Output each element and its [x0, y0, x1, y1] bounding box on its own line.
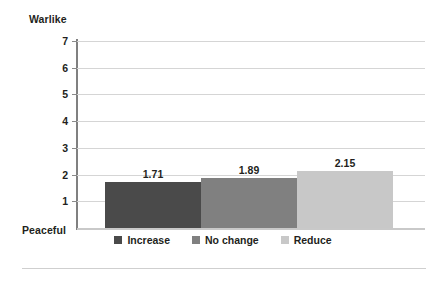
plot-area: [77, 41, 425, 228]
footer-divider: [22, 268, 426, 269]
x-axis-baseline: [77, 228, 425, 230]
legend-swatch-icon: [281, 236, 289, 244]
y-axis-tick-label: 3: [0, 143, 68, 154]
y-axis-tick-label: 1: [0, 196, 68, 207]
bar-value-label: 1.89: [201, 164, 297, 176]
legend-label: No change: [205, 235, 259, 246]
legend-item-reduce[interactable]: Reduce: [281, 235, 332, 246]
y-axis-tick-label: 2: [0, 170, 68, 181]
legend-swatch-icon: [192, 236, 200, 244]
y-axis-tick-label: 4: [0, 116, 68, 127]
y-axis-tick-label: 7: [0, 36, 68, 47]
legend-item-no-change[interactable]: No change: [192, 235, 259, 246]
legend-swatch-icon: [114, 236, 122, 244]
legend-label: Increase: [127, 235, 170, 246]
bar-value-label: 2.15: [297, 157, 393, 169]
bar-value-label: 1.71: [105, 168, 201, 180]
legend-item-increase[interactable]: Increase: [114, 235, 170, 246]
bar-chart: Warlike Peaceful 7654321 1.711.892.15 In…: [0, 0, 446, 281]
bar-no-change[interactable]: [201, 178, 297, 228]
legend-label: Reduce: [294, 235, 332, 246]
bar-reduce[interactable]: [297, 171, 393, 228]
y-axis-tick-label: 5: [0, 89, 68, 100]
y-axis-tick-label: 6: [0, 63, 68, 74]
legend: IncreaseNo changeReduce: [0, 235, 446, 246]
y-axis-top-anchor-label: Warlike: [29, 13, 67, 25]
bar-increase[interactable]: [105, 182, 201, 228]
